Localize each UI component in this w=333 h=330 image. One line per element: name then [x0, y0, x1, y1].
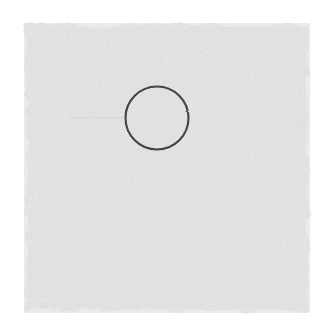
- sketch-svg: [0, 0, 333, 330]
- sketch-canvas[interactable]: Sketch Canvas A light grey textured squa…: [0, 0, 333, 330]
- shaded-square[interactable]: [24, 23, 310, 313]
- faint-horizontal-line[interactable]: [56, 117, 125, 118]
